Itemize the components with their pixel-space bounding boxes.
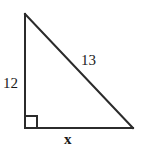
horizontal-leg-label: x — [64, 132, 72, 147]
right-angle-marker-icon — [25, 116, 37, 128]
triangle-drawing — [0, 0, 144, 151]
hypotenuse-line — [25, 14, 133, 128]
vertical-leg-label: 12 — [3, 76, 18, 91]
hypotenuse-label: 13 — [81, 53, 96, 68]
right-triangle-figure: 12 13 x — [0, 0, 144, 151]
